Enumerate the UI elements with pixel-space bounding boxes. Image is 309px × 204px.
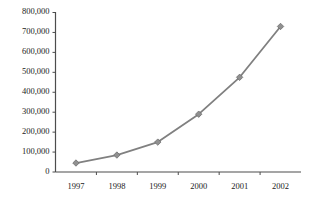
y-axis-tick-label: 200,000 [22, 126, 50, 136]
y-axis-tick-label: 600,000 [22, 46, 50, 56]
y-axis-tick-label: 800,000 [22, 6, 50, 16]
x-axis-tick-label: 2002 [272, 181, 289, 191]
y-axis-tick-label: 500,000 [22, 66, 50, 76]
y-axis-tick-labels: 0100,000200,000300,000400,000500,000600,… [22, 6, 50, 176]
x-axis-tick-label: 2000 [190, 181, 207, 191]
line-chart: 0100,000200,000300,000400,000500,000600,… [0, 0, 309, 204]
chart-canvas: 0100,000200,000300,000400,000500,000600,… [0, 0, 309, 204]
y-axis-tick-label: 0 [45, 166, 49, 176]
x-axis-tick-label: 1997 [67, 181, 84, 191]
x-axis-tick-label: 2001 [231, 181, 248, 191]
y-axis-tick-label: 300,000 [22, 106, 50, 116]
x-axis-tick-label: 1998 [108, 181, 125, 191]
y-axis-tick-label: 400,000 [22, 86, 50, 96]
y-axis-tick-label: 100,000 [22, 146, 50, 156]
y-axis-tick-label: 700,000 [22, 26, 50, 36]
x-axis-tick-label: 1999 [149, 181, 166, 191]
